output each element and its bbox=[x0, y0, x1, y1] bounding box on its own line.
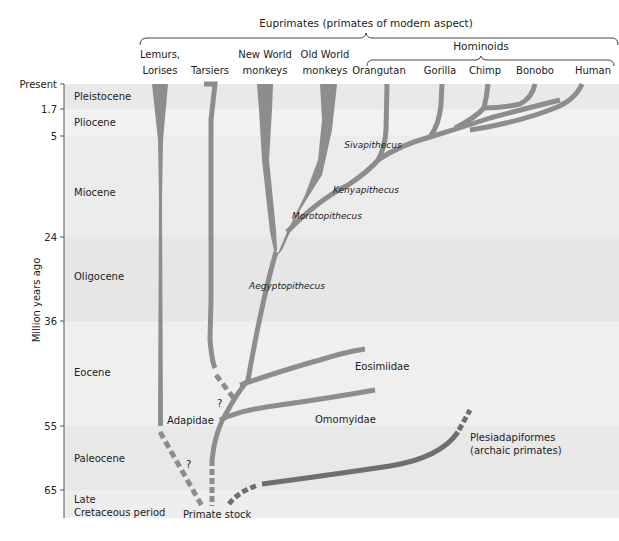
fossil-label: Morotopithecus bbox=[292, 211, 362, 221]
axis-label: Million years ago bbox=[31, 258, 42, 343]
taxon-label: Lorises bbox=[143, 65, 178, 76]
taxon-label: Human bbox=[575, 65, 611, 76]
tick-label: 1.7 bbox=[41, 104, 57, 115]
tick-label: 55 bbox=[44, 421, 57, 432]
tick-label: Present bbox=[19, 79, 57, 90]
taxon-label: monkeys bbox=[303, 65, 348, 76]
taxon-label: Tarsiers bbox=[190, 65, 229, 76]
period-band bbox=[64, 321, 619, 426]
fossil-label: Aegyptopithecus bbox=[248, 281, 325, 291]
hominoids-title: Hominoids bbox=[453, 40, 509, 52]
taxon-label: Bonobo bbox=[516, 65, 554, 76]
period-label: Eocene bbox=[74, 367, 111, 378]
group-label: Omomyidae bbox=[315, 414, 376, 425]
taxon-label: New World bbox=[238, 49, 292, 60]
taxon-label: monkeys bbox=[243, 65, 288, 76]
tick-label: 24 bbox=[44, 232, 57, 243]
period-label: Oligocene bbox=[74, 271, 124, 282]
taxon-label: Gorilla bbox=[424, 65, 456, 76]
group-label: Plesiadapiformes bbox=[470, 432, 555, 443]
group-label: (archaic primates) bbox=[470, 445, 562, 456]
euprimates-title: Euprimates (primates of modern aspect) bbox=[259, 17, 473, 29]
taxa-labels: Lemurs,LorisesTarsiersNew WorldmonkeysOl… bbox=[140, 49, 611, 76]
taxon-label: Chimp bbox=[469, 65, 501, 76]
group-label: Adapidae bbox=[167, 415, 214, 426]
group-label: ? bbox=[217, 398, 222, 409]
tick-label: 5 bbox=[51, 131, 57, 142]
taxon-label: Old World bbox=[301, 49, 350, 60]
fossil-label: Sivapithecus bbox=[344, 140, 402, 150]
period-label: Pliocene bbox=[74, 117, 116, 128]
euprimates-bracket bbox=[140, 33, 618, 45]
tick-label: 65 bbox=[44, 485, 57, 496]
period-band bbox=[64, 237, 619, 321]
period-label: Late bbox=[74, 494, 96, 505]
taxon-label: Orangutan bbox=[352, 65, 406, 76]
fossil-label: Kenyapithecus bbox=[333, 185, 399, 195]
group-label: Eosimiidae bbox=[355, 361, 409, 372]
period-label: Cretaceous period bbox=[74, 507, 165, 518]
tick-label: 36 bbox=[44, 316, 57, 327]
period-label: Pleistocene bbox=[74, 91, 131, 102]
period-label: Miocene bbox=[74, 187, 116, 198]
group-label: ? bbox=[186, 459, 191, 470]
group-label: Primate stock bbox=[183, 509, 252, 520]
taxon-label: Lemurs, bbox=[140, 49, 180, 60]
primate-phylogeny-diagram: Present1.7524365565 Million years ago Eu… bbox=[0, 0, 619, 541]
period-label: Paleocene bbox=[74, 453, 125, 464]
